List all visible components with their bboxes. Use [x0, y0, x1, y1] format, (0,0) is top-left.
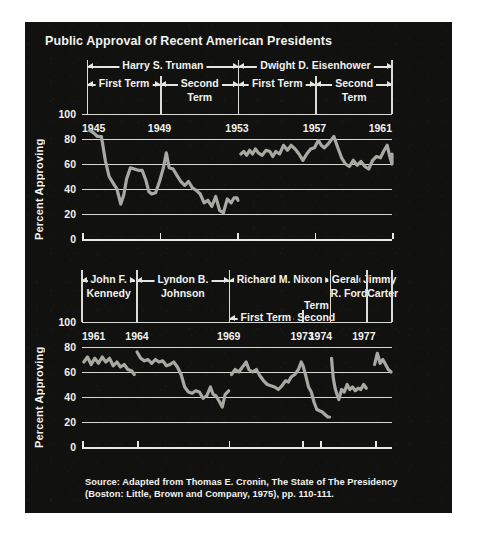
bracket-label-line2: Carter — [367, 287, 392, 299]
bracket-label: Lyndon B. — [154, 273, 211, 286]
president-divider — [87, 60, 89, 114]
president-bracket: Harry S. Truman — [88, 60, 238, 73]
data-line — [90, 130, 238, 213]
series-group — [82, 322, 392, 447]
y-axis-tick-label: 20 — [64, 208, 76, 220]
arrow-left-icon — [82, 277, 87, 283]
bracket-label: John F. — [88, 273, 130, 286]
page-title: Public Approval of Recent American Presi… — [45, 34, 332, 48]
bracket-label-line2: R. Ford — [331, 287, 367, 299]
y-axis-tick-label: 60 — [64, 158, 76, 170]
president-divider — [330, 270, 332, 322]
bracket-label-line2: Term — [303, 299, 330, 311]
data-line — [241, 137, 392, 170]
y-axis-tick-label: 0 — [70, 441, 76, 453]
president-bracket: Lyndon B. — [137, 274, 229, 287]
president-divider — [391, 60, 393, 114]
president-divider — [238, 60, 240, 114]
y-axis-tick-label: 40 — [64, 391, 76, 403]
arrow-left-icon — [137, 277, 142, 283]
y-axis-tick-label: 20 — [64, 416, 76, 428]
lower-y-axis-label: Percent Approving — [33, 338, 45, 448]
bracket-label: Second — [332, 77, 376, 90]
y-axis-tick-label: 100 — [58, 108, 76, 120]
term-divider — [302, 310, 304, 322]
bracket-label-line2: Johnson — [137, 287, 229, 299]
arrow-left-icon — [161, 81, 166, 87]
y-axis-tick-label: 40 — [64, 183, 76, 195]
arrow-right-icon — [130, 277, 135, 283]
upper-y-axis-label: Percent Approving — [33, 130, 45, 240]
y-axis-tick-label: 60 — [64, 366, 76, 378]
data-line — [84, 357, 135, 375]
president-divider — [391, 270, 393, 322]
source-note: Source: Adapted from Thomas E. Cronin, T… — [85, 477, 397, 500]
arrow-left-icon — [239, 63, 244, 69]
bracket-label: First Term — [96, 77, 153, 90]
data-line — [137, 352, 229, 407]
bracket-label: Second — [178, 77, 222, 90]
bracket-label: First Term — [249, 77, 306, 90]
term-bracket: Second — [316, 78, 392, 91]
y-axis-tick-label: 80 — [64, 133, 76, 145]
chart-figure: Public Approval of Recent American Presi… — [25, 22, 452, 513]
term-bracket: First Term — [239, 78, 316, 91]
arrow-left-icon — [316, 81, 321, 87]
president-divider — [366, 270, 368, 322]
y-axis-tick-label: 80 — [64, 341, 76, 353]
president-divider — [136, 270, 138, 322]
data-line — [375, 353, 392, 372]
upper-plot-area: 02040608010019451949195319571961 — [82, 114, 392, 239]
data-line — [232, 362, 330, 417]
bracket-label: Richard M. Nixon — [234, 273, 326, 286]
term-divider — [315, 76, 317, 114]
series-group — [82, 114, 392, 239]
arrow-left-icon — [88, 63, 93, 69]
president-divider — [81, 270, 83, 322]
term-bracket: Second — [161, 78, 238, 91]
y-axis-tick-label: 100 — [58, 316, 76, 328]
bracket-label-line2: Kennedy — [82, 287, 135, 299]
president-divider — [229, 270, 231, 322]
arrow-left-icon — [239, 81, 244, 87]
president-bracket: Jimmy — [367, 274, 392, 287]
arrow-left-icon — [88, 81, 93, 87]
lower-plot-area: 020406080100196119641969197319741977 — [82, 322, 392, 447]
x-axis-line — [82, 239, 392, 241]
x-axis-line — [82, 447, 392, 449]
president-bracket: Dwight D. Eisenhower — [239, 60, 392, 73]
arrow-left-icon — [230, 315, 235, 321]
y-axis-tick-label: 0 — [70, 233, 76, 245]
bracket-label-line2: Term — [316, 91, 392, 103]
president-bracket: Richard M. Nixon — [230, 274, 330, 287]
term-divider — [160, 76, 162, 114]
term-bracket: First Term — [88, 78, 161, 91]
lower-president-bracket-row: John F.Lyndon B.Richard M. NixonGeraldJi… — [82, 274, 392, 287]
bracket-label-line2: Term — [161, 91, 238, 103]
bracket-label: Harry S. Truman — [119, 59, 206, 72]
x-axis-tick — [392, 233, 394, 239]
data-line — [332, 358, 367, 399]
bracket-label: Dwight D. Eisenhower — [257, 59, 373, 72]
president-bracket: John F. — [82, 274, 135, 287]
